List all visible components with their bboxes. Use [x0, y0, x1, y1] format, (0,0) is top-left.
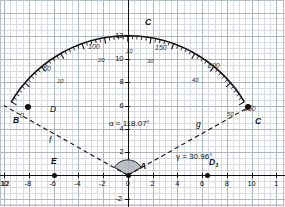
protractor-scale-number: 150 — [155, 44, 167, 51]
protractor-tick — [69, 49, 70, 52]
x-axis-label: -2 — [99, 180, 106, 188]
protractor-tick — [192, 53, 195, 58]
protractor-tick — [177, 45, 178, 48]
protractor-tick — [25, 83, 30, 87]
protractor-tick — [222, 76, 224, 78]
x-axis-label: 10 — [247, 180, 255, 188]
protractor-tick — [215, 70, 217, 73]
protractor-scale-number: 20 — [98, 57, 105, 63]
protractor-tick — [159, 40, 160, 43]
protractor-scale-number: 100 — [88, 43, 100, 50]
protractor-tick — [201, 58, 203, 61]
protractor-tick — [105, 38, 106, 44]
protractor-tick — [197, 56, 199, 59]
point-label-B: B — [13, 116, 19, 125]
x-axis-label: -6 — [49, 180, 56, 188]
protractor-scale-number: 40 — [192, 77, 199, 83]
protractor-scale-number: 50 — [227, 111, 234, 117]
protractor-tick — [22, 87, 25, 89]
protractor-scale-number: 30 — [147, 58, 154, 64]
protractor-scale-number: 10 — [57, 78, 64, 84]
x-axis-label: -10 — [0, 180, 9, 188]
protractor-tick — [185, 49, 186, 52]
y-axis-label: 10 — [115, 55, 123, 63]
point-marker-C[interactable] — [245, 104, 251, 110]
point-marker-A[interactable] — [126, 173, 131, 178]
y-axis-label: 2 — [120, 148, 124, 156]
protractor-tick — [65, 51, 67, 54]
x-axis-label: -4 — [74, 180, 81, 188]
x-axis-label: 2 — [151, 180, 155, 188]
construction-overlay — [0, 0, 285, 207]
protractor-tick — [231, 87, 234, 89]
point-label-C-apex: C — [145, 18, 151, 27]
protractor-tick — [239, 98, 242, 100]
x-axis-label: 6 — [200, 180, 204, 188]
y-axis-label: 6 — [120, 102, 124, 110]
angle-label-alpha: α = 118.07° — [109, 120, 150, 128]
protractor-tick — [225, 79, 227, 81]
segment-label-g: g — [196, 120, 201, 129]
protractor-tick — [82, 44, 84, 50]
segment-label-D: D — [50, 105, 56, 114]
point-label-E: E — [51, 157, 57, 166]
y-axis-label: 8 — [120, 78, 124, 86]
protractor-tick — [49, 61, 51, 64]
protractor-tick — [14, 98, 17, 100]
protractor-tick — [57, 56, 59, 59]
segment-label-f: f — [49, 136, 51, 145]
protractor-tick — [181, 47, 182, 50]
protractor-tick — [11, 102, 16, 105]
protractor-scale-number: 50 — [43, 65, 51, 72]
protractor-tick — [78, 45, 79, 48]
protractor-tick — [226, 83, 231, 87]
protractor-tick — [16, 94, 19, 96]
point-marker-E[interactable] — [52, 173, 57, 178]
protractor-tick — [236, 94, 239, 96]
protractor-tick — [189, 51, 191, 54]
protractor-tick — [19, 90, 22, 92]
protractor-tick — [73, 47, 74, 50]
x-axis-label: 0 — [126, 180, 130, 188]
protractor-tick — [61, 53, 64, 58]
protractor-tick — [219, 73, 221, 75]
protractor-scale-number: 0 — [20, 112, 24, 119]
protractor-tick — [205, 61, 207, 64]
point-label-A: A — [140, 162, 146, 171]
protractor-scale-number: 200 — [208, 62, 220, 69]
protractor-tick — [31, 76, 33, 78]
protractor-tick — [35, 73, 37, 75]
protractor-tick — [53, 58, 55, 61]
protractor-scale-number: 10 — [126, 48, 133, 54]
x-axis-label: -8 — [25, 180, 32, 188]
protractor-tick — [172, 44, 174, 50]
point-label-C: C — [255, 117, 261, 126]
geometry-diagram: 12-10-8-6-4-20246810112108642-2 05010015… — [0, 0, 285, 207]
x-axis-label: 4 — [175, 180, 179, 188]
y-axis-label: 12 — [115, 32, 123, 40]
point-marker-D1[interactable] — [205, 173, 210, 178]
point-marker-B[interactable] — [25, 104, 31, 110]
protractor-tick — [150, 38, 151, 44]
protractor-tick — [234, 90, 237, 92]
protractor-tick — [168, 42, 169, 45]
angle-label-gamma: γ = 30.96° — [176, 153, 212, 161]
point-label-D1-subscript: 1 — [215, 162, 218, 168]
x-axis-label: 8 — [225, 180, 229, 188]
y-axis-label: -2 — [115, 195, 122, 203]
x-axis-label: 1 — [274, 180, 278, 188]
protractor-tick — [28, 79, 30, 81]
protractor-tick — [38, 70, 40, 73]
